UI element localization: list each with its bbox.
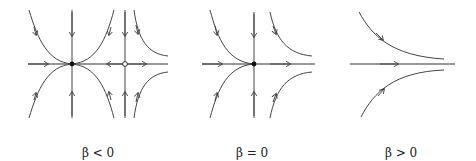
caption-beta-negative: β < 0 [82, 146, 114, 160]
trajectory-curve [210, 64, 254, 118]
caption-beta-zero: β = 0 [236, 146, 268, 160]
trajectory-curve [210, 10, 254, 64]
trajectory-curve [29, 10, 72, 64]
arrow-icon [109, 92, 111, 100]
bifurcation-phase-portraits [0, 0, 476, 161]
caption-beta-positive: β > 0 [385, 146, 417, 160]
trajectory-curve [29, 64, 72, 118]
semistable-fixed-point [252, 62, 257, 67]
trajectory-curve [134, 72, 168, 118]
arrow-icon [109, 27, 111, 35]
arrow-icon [376, 33, 383, 40]
trajectory-curve [72, 10, 114, 64]
trajectory-curve [270, 12, 312, 56]
trajectory-curve [270, 72, 312, 118]
stable-fixed-point [70, 62, 75, 67]
panel-beta-positive [350, 12, 455, 117]
trajectory-curve [134, 10, 168, 56]
trajectory-curve [72, 64, 114, 118]
unstable-fixed-point [123, 62, 128, 67]
panel-beta-negative [28, 10, 168, 118]
trajectory-curve [359, 12, 444, 59]
trajectory-curve [361, 70, 444, 117]
panel-beta-zero [202, 10, 315, 118]
